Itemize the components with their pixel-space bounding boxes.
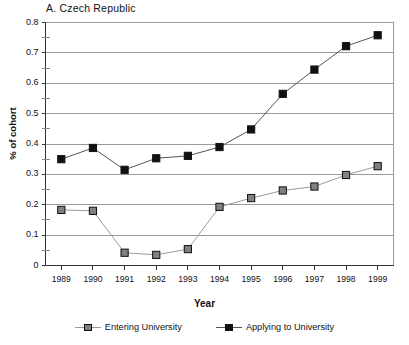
- x-axis-title: Year: [0, 298, 409, 309]
- legend-marker-icon: [75, 323, 101, 332]
- legend-label: Applying to University: [246, 322, 334, 332]
- y-tick-label: 0.8: [9, 18, 39, 27]
- y-tick-label: 0: [9, 261, 39, 270]
- y-tick-label: 0.3: [9, 169, 39, 178]
- y-tick-label: 0.2: [9, 200, 39, 209]
- y-tick-label: 0.6: [9, 78, 39, 87]
- chart-legend: Entering University Applying to Universi…: [0, 322, 409, 332]
- chart-figure: A. Czech Republic % of cohort 00.10.20.3…: [0, 0, 409, 345]
- x-tick-label: 1999: [358, 275, 398, 284]
- series-entering-university: [58, 163, 382, 259]
- legend-item-entering-university[interactable]: Entering University: [75, 322, 182, 332]
- legend-item-applying-to-university[interactable]: Applying to University: [216, 322, 334, 332]
- legend-label: Entering University: [105, 322, 182, 332]
- x-axis-ticks: [61, 266, 377, 270]
- plot-area: [0, 0, 409, 345]
- y-tick-label: 0.1: [9, 230, 39, 239]
- y-tick-label: 0.5: [9, 109, 39, 118]
- legend-marker-icon: [216, 323, 242, 332]
- y-tick-label: 0.4: [9, 139, 39, 148]
- y-tick-label: 0.7: [9, 48, 39, 57]
